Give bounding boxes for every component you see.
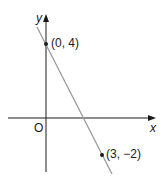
point-0-4 (44, 42, 48, 46)
point-label-3-neg2: (3, −2) (106, 148, 141, 160)
y-axis-label: y (36, 12, 42, 24)
x-axis-label: x (150, 122, 156, 134)
origin-label: O (34, 122, 43, 134)
y-axis-arrow-icon (43, 14, 49, 22)
point-3-neg2 (100, 153, 104, 157)
point-label-0-4: (0, 4) (51, 37, 79, 49)
